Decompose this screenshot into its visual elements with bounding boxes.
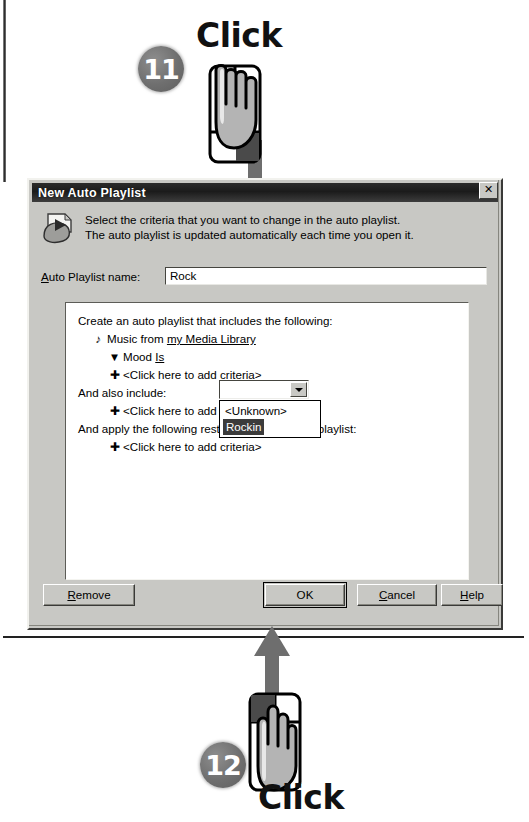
filter-funnel-icon: ▼ xyxy=(108,348,121,366)
dialog-title: New Auto Playlist xyxy=(32,186,146,200)
cancel-button[interactable]: Cancel xyxy=(357,584,437,606)
dialog-description-line2: The auto playlist is updated automatical… xyxy=(85,228,414,243)
dialog-header: Select the criteria that you want to cha… xyxy=(41,210,489,256)
name-label-rest: uto Playlist name: xyxy=(49,270,141,283)
criteria-heading: Create an auto playlist that includes th… xyxy=(66,312,468,330)
dialog-titlebar[interactable]: New Auto Playlist xyxy=(32,183,498,202)
mood-value-combobox[interactable] xyxy=(219,380,309,399)
new-auto-playlist-dialog: New Auto Playlist ✕ Select the criteria … xyxy=(27,178,503,630)
plus-icon: ✚ xyxy=(108,438,121,456)
dialog-description-line1: Select the criteria that you want to cha… xyxy=(85,213,414,228)
page-edge-line xyxy=(3,0,6,182)
auto-playlist-name-row: Auto Playlist name: xyxy=(41,266,487,286)
criteria-group-box: Create an auto playlist that includes th… xyxy=(65,302,469,580)
close-icon[interactable]: ✕ xyxy=(479,182,498,199)
step-badge-12: 12 xyxy=(200,742,246,788)
remove-button[interactable]: Remove xyxy=(43,584,135,606)
cancel-rest: ancel xyxy=(387,588,415,601)
auto-playlist-name-label: Auto Playlist name: xyxy=(41,270,165,283)
chevron-down-icon[interactable] xyxy=(290,382,307,397)
media-playlist-icon xyxy=(41,212,77,246)
plus-icon: ✚ xyxy=(108,366,121,384)
dialog-description: Select the criteria that you want to cha… xyxy=(85,210,414,256)
name-label-accesskey: A xyxy=(41,270,49,283)
also-include-label-text: And also include: xyxy=(78,384,166,402)
dropdown-option-rockin[interactable]: Rockin xyxy=(223,419,264,435)
criteria-row-mood[interactable]: ▼ Mood Is xyxy=(66,348,468,366)
dropdown-option-unknown[interactable]: <Unknown> xyxy=(223,403,320,419)
criteria-row-media-library[interactable]: ♪ Music from my Media Library xyxy=(66,330,468,348)
criteria-row-media-library-text: Music from my Media Library xyxy=(107,330,256,348)
remove-accesskey: R xyxy=(67,588,75,601)
plus-icon: ✚ xyxy=(108,402,121,420)
criteria-row-mood-text: Mood Is xyxy=(123,348,164,366)
mood-value-dropdown-list[interactable]: <Unknown> Rockin xyxy=(219,400,321,438)
step-badge-11: 11 xyxy=(138,46,184,92)
help-rest: elp xyxy=(468,588,483,601)
dialog-button-row: Remove OK Cancel Help xyxy=(29,584,501,608)
hand-pointer-mouse-icon xyxy=(196,62,276,172)
criteria-heading-text: Create an auto playlist that includes th… xyxy=(78,312,333,330)
criteria-row-add-3[interactable]: ✚ <Click here to add criteria> xyxy=(66,438,468,456)
criteria-row-add-3-text: <Click here to add criteria> xyxy=(123,438,262,456)
click-label-top: Click xyxy=(196,16,282,55)
music-note-icon: ♪ xyxy=(92,330,105,348)
remove-rest: emove xyxy=(76,588,111,601)
click-label-bottom: Click xyxy=(258,778,344,817)
auto-playlist-name-input[interactable] xyxy=(165,267,487,285)
help-button[interactable]: Help xyxy=(441,584,503,606)
ok-button[interactable]: OK xyxy=(265,584,345,606)
